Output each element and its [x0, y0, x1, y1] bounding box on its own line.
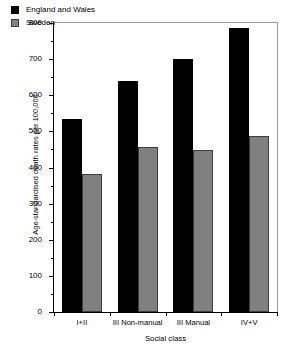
y-axis-minor-tick: [51, 258, 54, 259]
y-axis-tick-label: 100: [29, 272, 42, 280]
y-axis-tick-label: 200: [29, 236, 42, 244]
bar-sweden: [193, 150, 213, 312]
y-axis-minor-tick: [51, 222, 54, 223]
x-axis-category-label: III Manual: [177, 318, 210, 327]
bar-england-and-wales: [118, 81, 138, 312]
y-axis-tick: 500: [49, 131, 54, 132]
chart-legend: England and Wales Sweden: [11, 4, 95, 30]
chart-figure: Age-standardised death rates per 100,000…: [0, 0, 303, 358]
y-axis-tick: 700: [49, 59, 54, 60]
legend-item-sweden: Sweden: [11, 17, 95, 28]
bar-sweden: [138, 147, 158, 312]
x-axis-tick: [54, 312, 55, 316]
bar-england-and-wales: [229, 28, 249, 312]
legend-label: Sweden: [26, 19, 55, 27]
plot-area: 0100200300400500600700800I+IIIII Non-man…: [53, 22, 278, 313]
legend-label: England and Wales: [26, 6, 95, 14]
y-axis-minor-tick: [51, 149, 54, 150]
legend-item-england-and-wales: England and Wales: [11, 4, 95, 15]
y-axis-tick: 600: [49, 95, 54, 96]
y-axis-minor-tick: [51, 294, 54, 295]
x-axis-tick: [277, 312, 278, 316]
legend-swatch-icon: [11, 6, 19, 14]
bar-sweden: [82, 174, 102, 312]
bar-england-and-wales: [62, 119, 82, 312]
x-axis-tick: [110, 312, 111, 316]
y-axis-tick: 200: [49, 240, 54, 241]
y-axis-tick-label: 600: [29, 91, 42, 99]
x-axis-category-label: IV+V: [241, 318, 258, 327]
y-axis-minor-tick: [51, 77, 54, 78]
x-axis-tick: [221, 312, 222, 316]
x-axis-category-label: I+II: [76, 318, 87, 327]
y-axis-tick-label: 300: [29, 200, 42, 208]
x-axis-tick: [166, 312, 167, 316]
legend-swatch-icon: [11, 19, 19, 27]
y-axis-minor-tick: [51, 186, 54, 187]
y-axis-tick: 300: [49, 204, 54, 205]
y-axis-tick-label: 0: [38, 308, 42, 316]
bar-england-and-wales: [173, 59, 193, 312]
y-axis-tick-label: 400: [29, 164, 42, 172]
bar-sweden: [249, 136, 269, 312]
y-axis-tick: 400: [49, 168, 54, 169]
y-axis-minor-tick: [51, 113, 54, 114]
y-axis-tick-label: 500: [29, 127, 42, 135]
y-axis-minor-tick: [51, 41, 54, 42]
y-axis-tick-label: 700: [29, 55, 42, 63]
x-axis-title: Social class: [53, 334, 278, 343]
x-axis-category-label: III Non-manual: [113, 318, 163, 327]
y-axis-tick: 100: [49, 276, 54, 277]
